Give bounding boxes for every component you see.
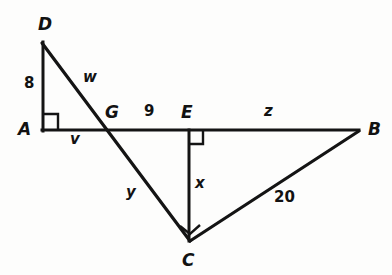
- segment-label-DC: w: [83, 70, 97, 85]
- segment-label-EB: z: [264, 104, 273, 119]
- vertex-label-G: G: [105, 104, 119, 121]
- vertex-label-C: C: [182, 252, 194, 269]
- vertex-label-E: E: [181, 104, 193, 121]
- right-angle-marker-E: [190, 131, 203, 144]
- geometry-diagram: D A G E B C 8 w v 9 z y x 20: [0, 0, 392, 275]
- vertex-label-B: B: [368, 121, 381, 138]
- segment-label-CB: 20: [274, 190, 295, 205]
- segment-CB: [190, 131, 359, 241]
- segment-label-AG: v: [70, 132, 80, 147]
- segment-label-GC: y: [126, 185, 136, 200]
- right-angle-marker-A: [44, 114, 58, 129]
- segment-label-DA: 8: [24, 76, 34, 91]
- segment-label-GE: 9: [144, 104, 154, 119]
- vertex-label-D: D: [38, 16, 52, 33]
- diagram-canvas: [0, 0, 392, 275]
- vertex-label-A: A: [18, 121, 31, 138]
- segment-label-EC: x: [195, 176, 205, 191]
- segment-DC: [42, 43, 190, 241]
